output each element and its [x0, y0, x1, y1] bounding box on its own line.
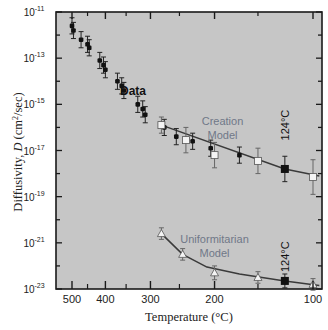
y-tick-label: 10-21	[23, 236, 44, 249]
data-marker	[237, 153, 242, 158]
annotation-model: Model	[200, 247, 230, 259]
data-marker	[190, 139, 195, 144]
x-tick-label: 100	[304, 293, 322, 305]
data-marker	[208, 146, 213, 151]
data-marker	[87, 45, 92, 50]
data-marker	[71, 28, 76, 33]
data-marker-124c	[281, 165, 289, 173]
uniformitarian-marker-124c	[281, 277, 289, 285]
data-marker	[101, 63, 106, 68]
creation-model-marker	[182, 137, 189, 144]
creation-model-marker	[310, 174, 317, 181]
annotation-data: Data	[120, 84, 146, 98]
creation-model-marker	[254, 157, 261, 164]
data-marker	[103, 67, 108, 72]
creation-model-marker	[211, 152, 218, 159]
annotation-124c: 124°C	[279, 110, 291, 141]
y-tick-label: 10-11	[24, 5, 45, 18]
data-marker	[97, 58, 102, 63]
y-tick-label: 10-17	[23, 144, 44, 157]
data-marker	[143, 112, 148, 117]
data-marker	[174, 134, 179, 139]
x-axis-title: Temperature (°C)	[145, 310, 233, 324]
data-marker	[115, 79, 120, 84]
annotation-uniformitarian: Uniformitarian	[180, 233, 248, 245]
x-tick-label: 200	[205, 293, 223, 305]
creation-model-marker	[158, 122, 165, 129]
x-tick-label: 400	[96, 293, 114, 305]
y-axis-title: Diffusivity, D (cm2/sec)	[11, 92, 25, 211]
y-tick-label: 10-19	[23, 190, 44, 203]
data-marker	[135, 102, 140, 107]
data-marker	[140, 107, 145, 112]
y-tick-label: 10-15	[23, 97, 44, 110]
y-tick-label: 10-13	[23, 51, 44, 64]
diffusivity-chart: DataCreationModel124°CUniformitarianMode…	[0, 0, 328, 330]
x-tick-label: 300	[141, 293, 159, 305]
data-marker	[70, 24, 75, 29]
annotation-model: Model	[207, 129, 237, 141]
data-marker	[79, 37, 84, 42]
x-tick-label: 500	[63, 293, 81, 305]
y-tick-label: 10-23	[23, 282, 44, 295]
annotation-124c: 124°C	[279, 241, 291, 272]
annotation-creation: Creation	[202, 115, 244, 127]
